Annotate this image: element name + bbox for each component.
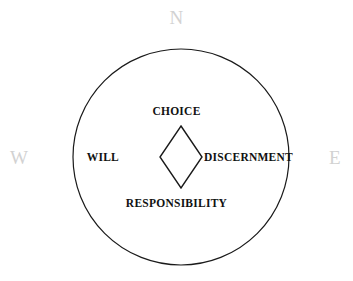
diagram-label-choice: CHOICE bbox=[0, 106, 353, 118]
diagram-label-discernment: DISCERNMENT bbox=[204, 152, 293, 164]
diagram-canvas: N W E CHOICE WILL DISCERNMENT RESPONSIBI… bbox=[0, 0, 353, 281]
diagram-label-will: WILL bbox=[87, 152, 119, 164]
diagram-shapes bbox=[0, 0, 353, 281]
inner-diamond bbox=[160, 126, 202, 188]
diagram-label-responsibility: RESPONSIBILITY bbox=[0, 198, 353, 210]
